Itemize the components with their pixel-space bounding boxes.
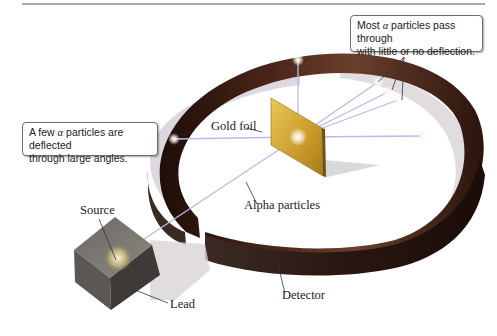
label-alpha-particles: Alpha particles xyxy=(244,198,320,213)
callout-line-1: A few α particles are deflected xyxy=(29,126,151,152)
lead-source-block xyxy=(74,217,160,310)
callout-few-deflected: A few α particles are deflected through … xyxy=(22,122,158,156)
callout-line-2: through large angles. xyxy=(29,152,151,165)
label-lead: Lead xyxy=(170,297,195,312)
callout-line-1: Most α particles pass through xyxy=(357,19,476,45)
label-detector: Detector xyxy=(282,288,325,303)
label-source: Source xyxy=(80,203,115,218)
label-gold-foil: Gold foil xyxy=(211,119,256,134)
callout-most-pass-through: Most α particles pass through with littl… xyxy=(350,15,483,52)
gold-foil-experiment-diagram: Most α particles pass through with littl… xyxy=(0,0,497,336)
callout-line-2: with little or no deflection. xyxy=(357,45,476,58)
